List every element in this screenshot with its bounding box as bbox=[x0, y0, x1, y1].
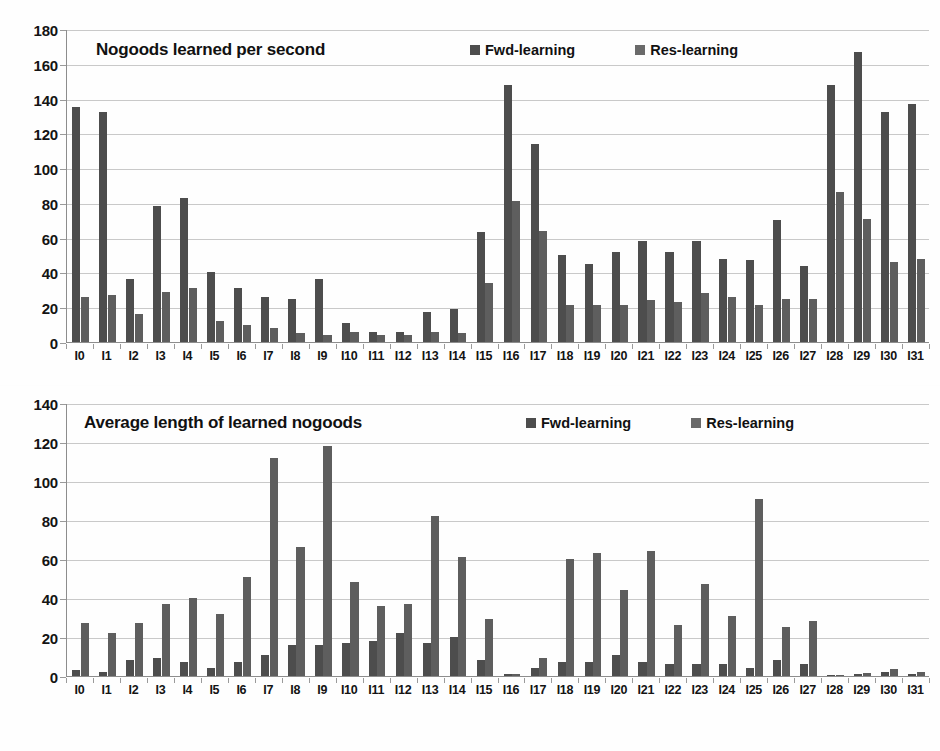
bar-res-learning bbox=[216, 614, 224, 676]
legend-entry-res[interactable]: Res-learning bbox=[635, 42, 738, 58]
x-axis-tick-mark bbox=[228, 678, 229, 683]
bar-res-learning bbox=[647, 551, 655, 676]
bar-group bbox=[121, 404, 148, 676]
y-axis-tick-label: 140 bbox=[34, 91, 58, 108]
y-axis-bottom: 020406080100120140 bbox=[0, 386, 66, 751]
bar-group bbox=[175, 404, 202, 676]
x-axis-tick-label: I22 bbox=[665, 349, 681, 363]
x-axis-tick-label: I20 bbox=[611, 683, 627, 697]
x-axis-tick-label: I7 bbox=[263, 683, 273, 697]
bar-res-learning bbox=[890, 669, 898, 676]
bar-group bbox=[445, 404, 472, 676]
x-axis-tick-mark bbox=[120, 678, 121, 683]
bar-fwd-learning bbox=[99, 672, 107, 676]
bar-fwd-learning bbox=[827, 675, 835, 676]
x-axis-tick-label: I15 bbox=[476, 683, 492, 697]
bar-res-learning bbox=[701, 584, 709, 676]
bar-group bbox=[364, 30, 391, 342]
x-axis-tick-mark bbox=[767, 678, 768, 683]
bar-group bbox=[795, 404, 822, 676]
bar-fwd-learning bbox=[315, 279, 323, 342]
x-axis-tick-label: I23 bbox=[692, 349, 708, 363]
x-axis-tick-label: I2 bbox=[129, 683, 139, 697]
x-axis-tick-mark bbox=[659, 678, 660, 683]
bar-res-learning bbox=[566, 305, 574, 342]
bar-group bbox=[660, 404, 687, 676]
bar-fwd-learning bbox=[531, 668, 539, 676]
x-axis-tick-mark bbox=[363, 344, 364, 349]
x-axis-tick-label: I5 bbox=[209, 349, 219, 363]
bar-res-learning bbox=[674, 625, 682, 676]
legend-entry-fwd[interactable]: Fwd-learning bbox=[526, 415, 631, 431]
bar-fwd-learning bbox=[477, 232, 485, 342]
plot-area-top bbox=[66, 30, 929, 343]
bar-group bbox=[741, 404, 768, 676]
bar-res-learning bbox=[458, 333, 466, 342]
x-axis-tick-label: I30 bbox=[880, 349, 896, 363]
bar-group bbox=[229, 404, 256, 676]
x-axis-tick-mark bbox=[794, 344, 795, 349]
bar-group bbox=[391, 30, 418, 342]
x-axis-tick-mark bbox=[282, 678, 283, 683]
x-axis-tick-mark bbox=[551, 344, 552, 349]
bar-fwd-learning bbox=[342, 643, 350, 676]
x-axis-tick-label: I31 bbox=[907, 683, 923, 697]
bar-fwd-learning bbox=[800, 664, 808, 676]
bar-res-learning bbox=[674, 302, 682, 342]
chart-panel-nogoods-per-second: 020406080100120140160180 Nogoods learned… bbox=[0, 0, 940, 385]
legend-swatch-fwd-icon bbox=[470, 45, 480, 55]
bar-fwd-learning bbox=[719, 259, 727, 342]
bar-group bbox=[283, 30, 310, 342]
bar-group bbox=[903, 404, 930, 676]
bar-res-learning bbox=[620, 305, 628, 342]
chart-title-bottom: Average length of learned nogoods bbox=[84, 413, 362, 433]
bar-res-learning bbox=[377, 335, 385, 342]
bar-group bbox=[849, 30, 876, 342]
bar-res-learning bbox=[162, 604, 170, 676]
legend-label-res: Res-learning bbox=[706, 415, 794, 431]
bar-fwd-learning bbox=[612, 655, 620, 676]
x-axis-tick-mark bbox=[713, 678, 714, 683]
x-axis-tick-mark bbox=[875, 678, 876, 683]
bar-group bbox=[121, 30, 148, 342]
x-axis-tick-mark bbox=[255, 344, 256, 349]
bar-fwd-learning bbox=[180, 198, 188, 342]
bar-fwd-learning bbox=[504, 85, 512, 342]
x-axis-tick-mark bbox=[93, 678, 94, 683]
y-axis-top: 020406080100120140160180 bbox=[0, 0, 66, 385]
x-axis-tick-mark bbox=[282, 344, 283, 349]
bar-group bbox=[94, 30, 121, 342]
bar-res-learning bbox=[728, 616, 736, 676]
x-axis-tick-label: I30 bbox=[880, 683, 896, 697]
x-axis-tick-label: I11 bbox=[368, 683, 384, 697]
bar-res-learning bbox=[782, 299, 790, 342]
x-axis-tick-mark bbox=[632, 678, 633, 683]
x-axis-top: I0I1I2I3I4I5I6I7I8I9I10I11I12I13I14I15I1… bbox=[66, 344, 928, 366]
legend-entry-res[interactable]: Res-learning bbox=[691, 415, 794, 431]
x-axis-tick-label: I0 bbox=[75, 349, 85, 363]
x-axis-tick-mark bbox=[498, 344, 499, 349]
x-axis-tick-label: I20 bbox=[611, 349, 627, 363]
bar-fwd-learning bbox=[369, 332, 377, 342]
bar-fwd-learning bbox=[234, 662, 242, 676]
bar-res-learning bbox=[243, 577, 251, 676]
plot-wrap-top: 020406080100120140160180 Nogoods learned… bbox=[0, 0, 940, 385]
x-axis-tick-label: I26 bbox=[772, 349, 788, 363]
legend-swatch-res-icon bbox=[635, 45, 645, 55]
x-axis-tick-label: I18 bbox=[557, 683, 573, 697]
x-axis-tick-mark bbox=[363, 678, 364, 683]
y-axis-tick-label: 120 bbox=[34, 435, 58, 452]
x-axis-tick-label: I31 bbox=[907, 349, 923, 363]
x-axis-tick-mark bbox=[929, 344, 930, 349]
x-axis-tick-mark bbox=[524, 678, 525, 683]
x-axis-tick-label: I10 bbox=[341, 683, 357, 697]
legend-entry-fwd[interactable]: Fwd-learning bbox=[470, 42, 575, 58]
x-axis-tick-label: I21 bbox=[638, 349, 654, 363]
x-axis-tick-label: I28 bbox=[826, 683, 842, 697]
bar-fwd-learning bbox=[692, 241, 700, 342]
x-axis-tick-mark bbox=[902, 678, 903, 683]
bar-fwd-learning bbox=[477, 660, 485, 676]
bar-res-learning bbox=[566, 559, 574, 676]
bar-fwd-learning bbox=[854, 52, 862, 342]
bar-group bbox=[310, 404, 337, 676]
